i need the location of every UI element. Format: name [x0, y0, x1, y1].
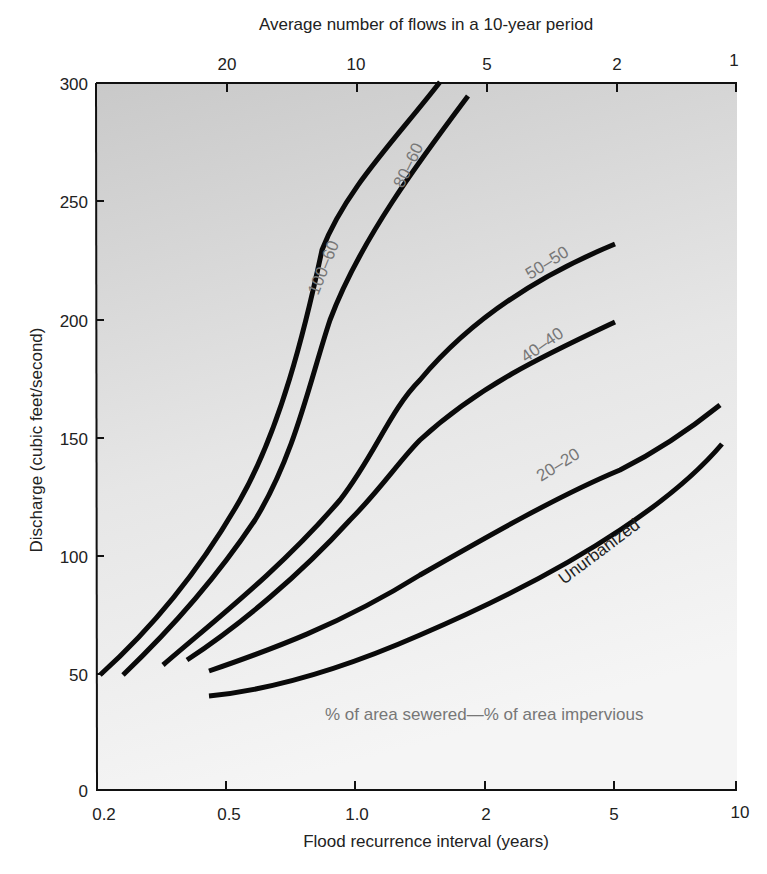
y-tick-label: 300 [60, 75, 88, 94]
plot-area [96, 83, 737, 790]
y-tick-label: 100 [60, 548, 88, 567]
x-tick-label: 2 [481, 805, 490, 824]
y-tick-label: 250 [60, 193, 88, 212]
top-tick-label: 2 [612, 55, 621, 74]
top-axis-title: Average number of flows in a 10-year per… [259, 15, 593, 34]
x-tick-label: 0.2 [92, 805, 116, 824]
x-tick-label: 1.0 [345, 805, 369, 824]
top-tick-labels: 20 10 5 2 1 [218, 51, 739, 74]
top-tick-label: 5 [482, 55, 491, 74]
y-tick-label: 50 [69, 666, 88, 685]
y-tick-label: 200 [60, 312, 88, 331]
x-tick-label: 10 [731, 803, 750, 822]
y-tick-label: 0 [79, 782, 88, 801]
x-tick-label: 0.5 [217, 805, 241, 824]
y-axis-line [96, 83, 97, 790]
curve-legend-annotation: % of area sewered—% of area impervious [325, 705, 643, 724]
y-axis-title: Discharge (cubic feet/second) [27, 328, 46, 553]
top-tick-label: 20 [218, 55, 237, 74]
top-tick-label: 10 [347, 55, 366, 74]
x-tick-label: 5 [609, 805, 618, 824]
y-tick-label: 150 [60, 430, 88, 449]
top-tick-label: 1 [729, 51, 738, 70]
x-tick-labels: 0.2 0.5 1.0 2 5 10 [92, 803, 749, 824]
y-tick-labels: 0 50 100 150 200 250 300 [60, 75, 88, 801]
x-axis-title: Flood recurrence interval (years) [303, 832, 549, 851]
chart: 0 50 100 150 200 250 300 0.2 0.5 1.0 2 5… [0, 0, 767, 874]
